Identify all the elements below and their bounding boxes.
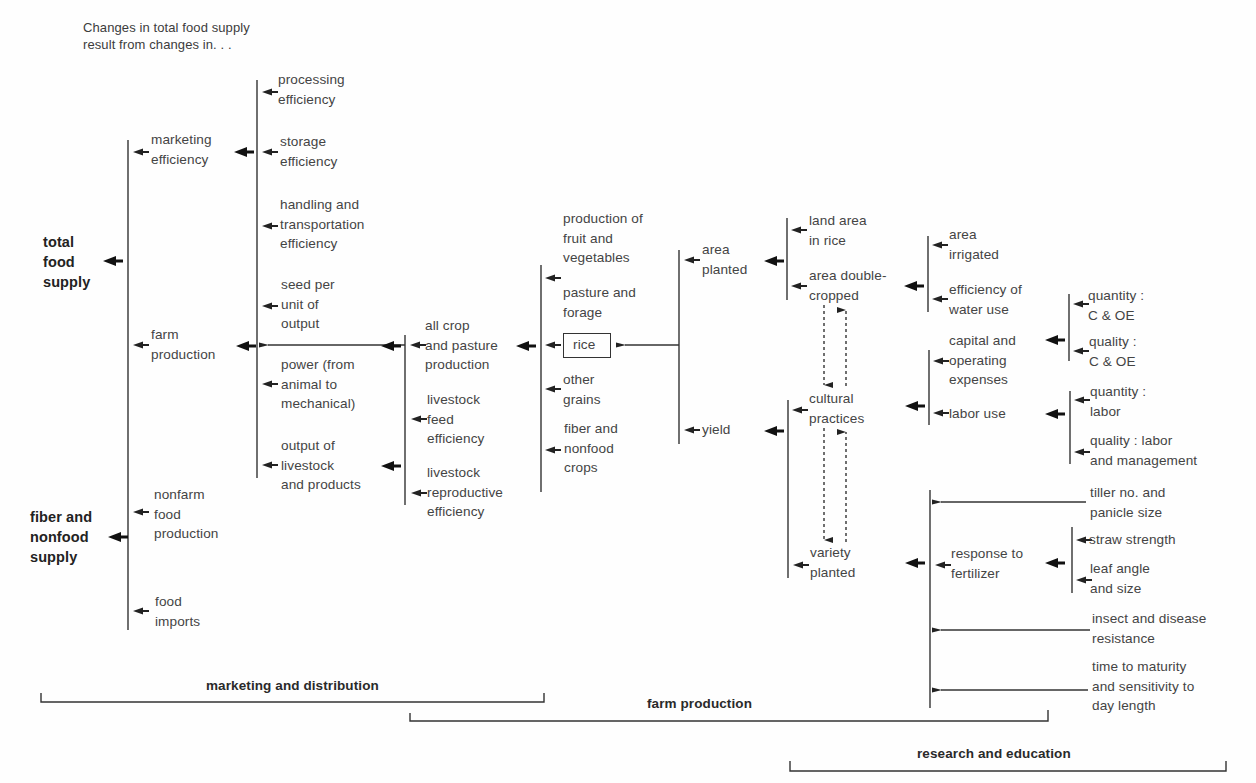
node-quantity-labor: quantity : labor [1090, 382, 1146, 421]
node-quantity-coe: quantity : C & OE [1088, 286, 1144, 325]
node-area-irrigated: area irrigated [949, 225, 999, 264]
node-quality-coe: quality : C & OE [1089, 332, 1137, 371]
node-seed-per-unit: seed per unit of output [281, 275, 335, 334]
node-all-crop-pasture: all crop and pasture production [425, 316, 498, 375]
node-processing-efficiency: processing efficiency [278, 70, 345, 109]
bracket-label-farm-production: farm production [647, 694, 752, 714]
node-total-food-supply: total food supply [43, 232, 90, 292]
node-fiber-nonfood-supply: fiber and nonfood supply [30, 507, 92, 567]
node-fruit-vegetables: production of fruit and vegetables [563, 209, 643, 268]
node-cultural-practices: cultural practices [809, 389, 864, 428]
node-other-grains: other grains [563, 370, 601, 409]
node-food-imports: food imports [155, 592, 200, 631]
node-livestock-reproductive: livestock reproductive efficiency [427, 463, 503, 522]
node-labor-use: labor use [949, 404, 1006, 424]
node-variety-planted: variety planted [810, 543, 855, 582]
node-response-fertilizer: response to fertilizer [951, 544, 1023, 583]
node-handling-transportation: handling and transportation efficiency [280, 195, 365, 254]
node-water-use-efficiency: efficiency of water use [949, 280, 1022, 319]
node-nonfarm-food-production: nonfarm food production [154, 485, 218, 544]
node-capital-operating: capital and operating expenses [949, 331, 1016, 390]
node-marketing-efficiency: marketing efficiency [151, 130, 212, 169]
node-pasture-forage: pasture and forage [563, 283, 636, 322]
bracket-label-marketing-distribution: marketing and distribution [206, 676, 379, 696]
node-area-planted: area planted [702, 240, 747, 279]
node-straw-strength: straw strength [1089, 530, 1176, 550]
node-livestock-feed: livestock feed efficiency [427, 390, 484, 449]
node-rice: rice [573, 335, 595, 355]
node-quality-labor: quality : labor and management [1090, 431, 1197, 470]
node-output-livestock: output of livestock and products [281, 436, 361, 495]
node-time-maturity: time to maturity and sensitivity to day … [1092, 657, 1194, 716]
node-tiller-panicle: tiller no. and panicle size [1090, 483, 1165, 522]
node-land-area-rice: land area in rice [809, 211, 867, 250]
food-supply-diagram: Changes in total food supply result from… [0, 0, 1256, 783]
node-farm-production: farm production [151, 325, 215, 364]
bracket-label-research-education: research and education [917, 744, 1071, 764]
node-power: power (from animal to mechanical) [281, 355, 355, 414]
node-fiber-nonfood-crops: fiber and nonfood crops [564, 419, 618, 478]
node-area-double-cropped: area double- cropped [809, 266, 887, 305]
connector-lines [0, 0, 1256, 783]
diagram-caption: Changes in total food supply result from… [83, 19, 250, 53]
node-storage-efficiency: storage efficiency [280, 132, 337, 171]
node-yield: yield [702, 420, 730, 440]
node-insect-disease: insect and disease resistance [1092, 609, 1206, 648]
node-leaf-angle: leaf angle and size [1090, 559, 1150, 598]
